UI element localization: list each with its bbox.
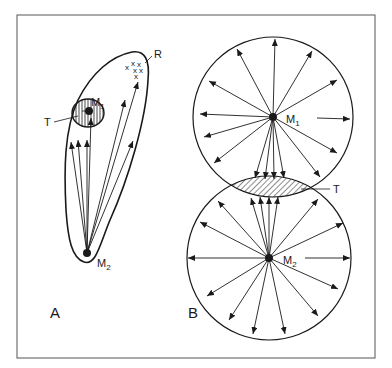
svg-text:x: x [125,63,129,72]
label-m2: M2 [97,257,111,272]
m2-dot-b [265,254,273,262]
m1-dot-b [269,113,277,121]
label-t-b: T [333,183,340,195]
panel-a: x x x x x x R T M1 M2 A [44,48,162,321]
r-cluster: x x x x x x [125,59,143,81]
panel-label-a: A [50,304,60,321]
arrows-m1 [200,39,350,179]
svg-text:x: x [134,72,138,81]
label-t: T [44,116,51,128]
label-r: R [154,48,162,60]
arrows-m2 [188,197,350,334]
panel-b: M1 M2 T B [187,37,353,340]
label-m2-b: M2 [283,254,297,269]
field-outline [65,52,148,263]
panel-label-b: B [188,304,198,321]
diagram-figure: x x x x x x R T M1 M2 A [0,0,392,368]
svg-text:x: x [139,66,143,75]
